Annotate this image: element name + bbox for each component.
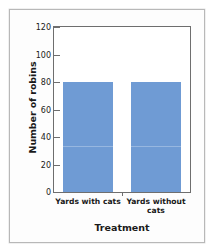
- y-tick-label: 80: [41, 78, 51, 87]
- y-tick-label: 20: [41, 160, 51, 169]
- y-tick: 20: [54, 165, 60, 166]
- y-tick-label: 120: [36, 23, 51, 32]
- y-tick-mark: [54, 55, 60, 56]
- y-tick-label: 100: [36, 50, 51, 59]
- y-tick-mark: [54, 110, 60, 111]
- chart-card: Number of robins 020406080100120 Yards w…: [9, 9, 205, 243]
- y-tick-mark: [54, 27, 60, 28]
- x-tick-label: Yards with cats: [50, 197, 126, 206]
- bar: [63, 82, 113, 192]
- y-axis-title: Number of robins: [27, 48, 38, 168]
- bar: [131, 82, 181, 192]
- y-tick-label: 60: [41, 105, 51, 114]
- plot-area: 020406080100120 Yards with catsYards wit…: [53, 26, 191, 193]
- y-tick: 120: [54, 27, 60, 28]
- y-tick-label: 40: [41, 133, 51, 142]
- y-tick: 100: [54, 55, 60, 56]
- x-axis-title: Treatment: [53, 222, 191, 233]
- x-tick-label: Yards without cats: [118, 197, 194, 215]
- y-tick-mark: [54, 192, 60, 193]
- x-tick-mark: [122, 192, 123, 196]
- y-tick-label: 0: [46, 188, 51, 197]
- y-tick: 40: [54, 137, 60, 138]
- y-tick-mark: [54, 137, 60, 138]
- y-tick-mark: [54, 165, 60, 166]
- y-tick-mark: [54, 82, 60, 83]
- y-tick: 80: [54, 82, 60, 83]
- y-tick: 60: [54, 110, 60, 111]
- y-tick: 0: [54, 192, 60, 193]
